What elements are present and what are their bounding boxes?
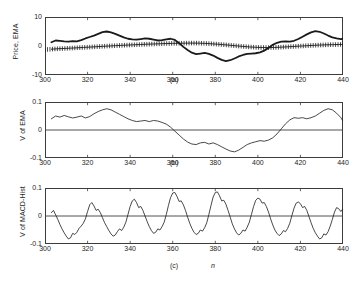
x-tick-b-380: 380	[203, 159, 227, 166]
y-tick-c-0: 0.1	[22, 184, 42, 191]
x-tick-c-340: 340	[118, 245, 142, 252]
x-tick-a-440: 440	[331, 76, 355, 83]
y-tick-c-1: 0	[24, 212, 42, 219]
x-tick-b-300: 300	[33, 159, 57, 166]
y-tick-b-0: 0.1	[22, 98, 42, 105]
x-tick-b-400: 400	[246, 159, 270, 166]
x-tick-c-320: 320	[76, 245, 100, 252]
x-tick-c-400: 400	[246, 245, 270, 252]
matlab-figure: Price, EMA 10 0 -10 30032034036038040042…	[0, 0, 360, 287]
x-tick-c-420: 420	[288, 245, 312, 252]
x-tick-a-300: 300	[33, 76, 57, 83]
plot-canvas-c	[45, 188, 343, 244]
x-tick-a-420: 420	[288, 76, 312, 83]
x-tick-a-340: 340	[118, 76, 142, 83]
subplot-v-of-macd-hist	[45, 188, 343, 244]
x-tick-a-400: 400	[246, 76, 270, 83]
x-tick-c-300: 300	[33, 245, 57, 252]
x-tick-c-380: 380	[203, 245, 227, 252]
x-tick-c-360: 360	[161, 245, 185, 252]
x-tick-b-420: 420	[288, 159, 312, 166]
x-tick-a-380: 380	[203, 76, 227, 83]
caption-b: (b)	[164, 159, 184, 166]
y-axis-label-a: Price, EMA	[12, 13, 19, 71]
y-tick-a-1: 0	[24, 42, 42, 49]
x-tick-b-320: 320	[76, 159, 100, 166]
subplot-price-ema	[45, 17, 343, 75]
subplot-v-of-ema	[45, 102, 343, 158]
x-tick-c-440: 440	[331, 245, 355, 252]
caption-a: (a)	[164, 76, 184, 83]
plot-canvas-a	[45, 17, 343, 75]
plot-canvas-b	[45, 102, 343, 158]
x-tick-b-340: 340	[118, 159, 142, 166]
x-axis-label-c: n	[205, 262, 221, 269]
y-tick-b-1: 0	[24, 126, 42, 133]
y-tick-a-0: 10	[24, 13, 42, 20]
caption-c: (c)	[164, 262, 184, 269]
x-tick-b-440: 440	[331, 159, 355, 166]
x-tick-a-320: 320	[76, 76, 100, 83]
